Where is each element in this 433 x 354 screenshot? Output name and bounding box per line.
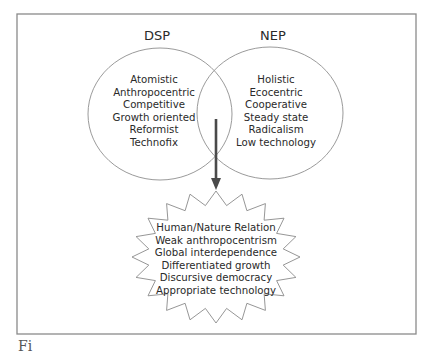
dsp-item: Technofix: [129, 137, 178, 148]
result-item: Differentiated growth: [161, 260, 270, 271]
result-item: Human/Nature Relation: [156, 222, 275, 233]
dsp-title: DSP: [144, 28, 170, 43]
nep-item: Holistic: [257, 74, 294, 85]
dsp-item: Competitive: [123, 99, 185, 110]
result-item: Global interdependence: [155, 247, 277, 258]
nep-item: Radicalism: [248, 124, 303, 135]
nep-item: Steady state: [244, 112, 309, 123]
nep-item: Cooperative: [245, 99, 307, 110]
dsp-item: Atomistic: [130, 74, 178, 85]
dsp-item: Anthropocentric: [113, 87, 195, 98]
nep-item: Ecocentric: [249, 87, 302, 98]
result-item: Appropriate technology: [156, 285, 276, 296]
dsp-item: Reformist: [130, 124, 179, 135]
nep-item: Low technology: [236, 137, 316, 148]
figure-caption: Fi: [18, 338, 32, 354]
result-item: Weak anthropocentrism: [155, 235, 277, 246]
result-item: Discursive democracy: [160, 272, 272, 283]
dsp-item: Growth oriented: [113, 112, 196, 123]
nep-title: NEP: [260, 28, 286, 43]
